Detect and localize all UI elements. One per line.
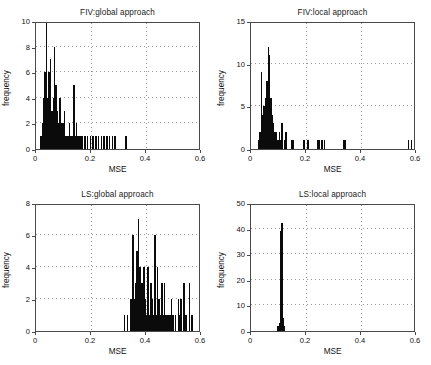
y-tick-mark xyxy=(247,150,250,151)
x-tick-mark xyxy=(90,332,91,335)
plot-area xyxy=(250,22,415,150)
y-axis-title: frequency xyxy=(217,70,226,106)
plot-area xyxy=(35,22,200,150)
histogram-bar xyxy=(408,140,409,149)
y-tick-mark xyxy=(247,332,250,333)
histogram-bar xyxy=(191,315,192,331)
x-tick-label: 0.4 xyxy=(131,336,159,345)
x-tick-label: 0.2 xyxy=(291,154,319,163)
y-tick-mark xyxy=(32,22,35,23)
y-tick-label: 0 xyxy=(218,145,245,154)
x-tick-label: 0.2 xyxy=(76,336,104,345)
x-tick-label: 0 xyxy=(21,154,49,163)
x-tick-mark xyxy=(35,150,36,153)
y-tick-mark xyxy=(32,300,35,301)
y-tick-mark xyxy=(32,73,35,74)
y-tick-label: 8 xyxy=(3,43,30,52)
histogram-bar xyxy=(186,315,187,331)
x-tick-label: 0 xyxy=(236,336,264,345)
histogram-bar xyxy=(101,136,102,149)
y-tick-mark xyxy=(247,281,250,282)
y-tick-mark xyxy=(32,268,35,269)
y-tick-label: 8 xyxy=(3,199,30,208)
histogram-bar xyxy=(292,140,293,149)
histogram-bar xyxy=(284,326,285,331)
y-axis-title: frequency xyxy=(217,252,226,288)
y-axis-title: frequency xyxy=(2,252,11,288)
caption-strip xyxy=(0,353,431,365)
y-tick-mark xyxy=(247,107,250,108)
y-tick-label: 2 xyxy=(3,295,30,304)
x-tick-label: 0.6 xyxy=(401,154,429,163)
panel-title: FIV:global approach xyxy=(35,8,200,17)
y-tick-label: 2 xyxy=(3,119,30,128)
x-tick-mark xyxy=(415,150,416,153)
y-tick-label: 15 xyxy=(218,17,245,26)
y-tick-mark xyxy=(247,306,250,307)
y-tick-mark xyxy=(32,99,35,100)
histogram-bar xyxy=(321,140,322,149)
x-axis-title: MSE xyxy=(35,165,200,174)
y-axis-title: frequency xyxy=(2,70,11,106)
x-axis-title: MSE xyxy=(250,165,415,174)
y-tick-mark xyxy=(247,255,250,256)
y-tick-label: 40 xyxy=(218,225,245,234)
y-tick-label: 0 xyxy=(3,327,30,336)
x-tick-label: 0.2 xyxy=(291,336,319,345)
x-tick-label: 0.2 xyxy=(76,154,104,163)
histogram-bar xyxy=(127,315,128,331)
x-tick-mark xyxy=(250,332,251,335)
x-tick-mark xyxy=(360,332,361,335)
x-tick-mark xyxy=(90,150,91,153)
histogram-bar xyxy=(98,136,99,149)
y-tick-mark xyxy=(32,124,35,125)
x-tick-label: 0 xyxy=(21,336,49,345)
y-tick-mark xyxy=(32,48,35,49)
histogram-bar xyxy=(307,140,308,149)
histogram-bar xyxy=(124,315,125,331)
bar-series xyxy=(251,205,414,331)
bar-series xyxy=(251,23,414,149)
plot-area xyxy=(250,204,415,332)
histogram-bar xyxy=(95,136,96,149)
x-tick-label: 0.6 xyxy=(186,154,214,163)
y-tick-mark xyxy=(247,65,250,66)
histogram-bar xyxy=(106,136,107,149)
panel-title: FIV:local approach xyxy=(250,8,415,17)
x-tick-mark xyxy=(415,332,416,335)
x-tick-label: 0 xyxy=(236,154,264,163)
x-tick-label: 0.4 xyxy=(346,154,374,163)
x-tick-label: 0.6 xyxy=(186,336,214,345)
y-tick-mark xyxy=(32,332,35,333)
y-tick-mark xyxy=(247,204,250,205)
x-tick-mark xyxy=(250,150,251,153)
y-tick-mark xyxy=(247,230,250,231)
histogram-bar xyxy=(189,283,190,331)
y-tick-label: 0 xyxy=(218,327,245,336)
histogram-bar xyxy=(345,140,346,149)
x-tick-mark xyxy=(200,150,201,153)
histogram-bar xyxy=(175,315,176,331)
x-tick-label: 0.6 xyxy=(401,336,429,345)
histogram-bar xyxy=(87,136,88,149)
histogram-bar xyxy=(285,132,286,149)
y-tick-label: 6 xyxy=(3,231,30,240)
x-tick-mark xyxy=(305,150,306,153)
x-tick-mark xyxy=(35,332,36,335)
x-tick-mark xyxy=(360,150,361,153)
x-tick-mark xyxy=(145,332,146,335)
histogram-bar xyxy=(92,136,93,149)
panel-title: LS:local approach xyxy=(250,190,415,199)
y-tick-mark xyxy=(247,22,250,23)
histogram-bar xyxy=(103,136,104,149)
panel-fiv-global: FIV:global approach 00.20.40.60246810MSE… xyxy=(0,2,215,184)
panel-ls-global: LS:global approach 00.20.40.602468MSEfre… xyxy=(0,184,215,365)
histogram-bar xyxy=(180,299,181,331)
y-tick-label: 10 xyxy=(218,301,245,310)
figure-histogram-grid: FIV:global approach 00.20.40.60246810MSE… xyxy=(0,0,431,365)
histogram-bar xyxy=(114,136,115,149)
x-tick-label: 0.4 xyxy=(346,336,374,345)
y-tick-label: 10 xyxy=(3,17,30,26)
panel-ls-local: LS:local approach 00.20.40.601020304050M… xyxy=(215,184,431,365)
panel-title: LS:global approach xyxy=(35,190,200,199)
